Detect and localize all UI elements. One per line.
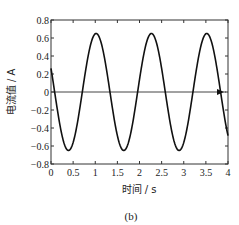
y-tick-label: −0.6 (31, 141, 49, 152)
x-tick-label: 1 (93, 167, 98, 178)
y-tick-label: 0.4 (37, 51, 50, 62)
x-axis-label: 时间 / s (122, 183, 157, 195)
y-axis-label: 电流值 / A (5, 69, 17, 116)
x-tick-label: 2.5 (155, 167, 168, 178)
x-tick-labels: 00.511.522.533.54 (49, 167, 231, 178)
y-tick-label: −0.4 (31, 123, 49, 134)
y-tick-label: −0.8 (31, 159, 49, 170)
x-tick-label: 2 (137, 167, 142, 178)
x-tick-label: 0 (49, 167, 54, 178)
figure-caption: (b) (125, 210, 138, 223)
y-tick-label: −0.2 (31, 105, 49, 116)
y-tick-labels: −0.8−0.6−0.4−0.200.20.40.60.8 (31, 15, 49, 170)
y-tick-label: 0 (44, 87, 49, 98)
x-tick-label: 0.5 (67, 167, 80, 178)
x-tick-label: 4 (226, 167, 231, 178)
x-tick-label: 3 (181, 167, 186, 178)
y-tick-label: 0.6 (37, 33, 50, 44)
y-tick-label: 0.8 (37, 15, 50, 26)
x-tick-label: 3.5 (200, 167, 213, 178)
x-tick-label: 1.5 (111, 167, 124, 178)
chart: 00.511.522.533.54 −0.8−0.6−0.4−0.200.20.… (0, 0, 239, 225)
y-tick-label: 0.2 (37, 69, 50, 80)
